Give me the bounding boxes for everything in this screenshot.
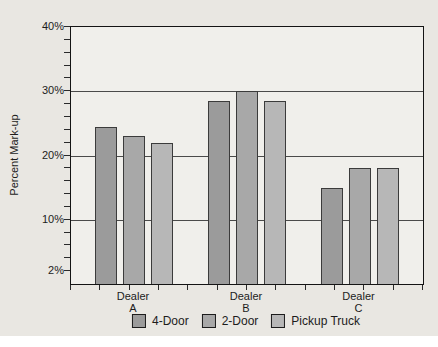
chart-panel: Percent Mark-up 4-Door2-DoorPickup Truck… bbox=[0, 0, 438, 336]
category-label-line1: Dealer bbox=[214, 290, 278, 302]
y-axis-minor-tick bbox=[64, 26, 70, 27]
x-category-label: DealerB bbox=[214, 290, 278, 314]
y-axis-minor-tick bbox=[64, 232, 70, 233]
y-axis-minor-tick bbox=[64, 193, 70, 194]
legend-label: 4-Door bbox=[152, 314, 189, 328]
category-label-line2: C bbox=[327, 302, 391, 314]
bar-2-door-dealer-a bbox=[123, 136, 145, 284]
bar-4-door-dealer-c bbox=[321, 188, 343, 284]
bar-2-door-dealer-c bbox=[349, 168, 371, 284]
bar-4-door-dealer-a bbox=[95, 127, 117, 284]
legend: 4-Door2-DoorPickup Truck bbox=[132, 314, 360, 328]
y-axis-tick-label: 2% bbox=[26, 264, 64, 277]
y-axis-minor-tick bbox=[64, 244, 70, 245]
legend-item-pickup-truck: Pickup Truck bbox=[271, 314, 360, 328]
category-label-line1: Dealer bbox=[327, 290, 391, 302]
y-axis-minor-tick bbox=[64, 65, 70, 66]
legend-swatch bbox=[202, 314, 216, 328]
y-axis-tick-label: 30% bbox=[26, 84, 64, 97]
x-axis-tick bbox=[393, 285, 394, 290]
y-axis-minor-tick bbox=[64, 77, 70, 78]
legend-swatch bbox=[132, 314, 146, 328]
category-label-line2: A bbox=[101, 302, 165, 314]
bar-pickup-truck-dealer-a bbox=[151, 143, 173, 284]
x-axis-tick bbox=[187, 285, 188, 290]
y-axis-minor-tick bbox=[64, 39, 70, 40]
legend-item-2-door: 2-Door bbox=[202, 314, 259, 328]
legend-item-4-door: 4-Door bbox=[132, 314, 189, 328]
y-axis-minor-tick bbox=[64, 129, 70, 130]
bar-pickup-truck-dealer-c bbox=[377, 168, 399, 284]
y-axis-minor-tick bbox=[64, 52, 70, 53]
bar-pickup-truck-dealer-b bbox=[264, 101, 286, 284]
y-axis-minor-tick bbox=[64, 270, 70, 271]
y-axis-tick-label: 40% bbox=[26, 20, 64, 33]
legend-swatch bbox=[271, 314, 285, 328]
bar-2-door-dealer-b bbox=[236, 91, 258, 284]
bar-4-door-dealer-b bbox=[208, 101, 230, 284]
y-axis-minor-tick bbox=[64, 90, 70, 91]
x-category-label: DealerC bbox=[327, 290, 391, 314]
x-axis-tick bbox=[422, 285, 423, 290]
legend-label: Pickup Truck bbox=[291, 314, 360, 328]
x-category-label: DealerA bbox=[101, 290, 165, 314]
category-label-line1: Dealer bbox=[101, 290, 165, 302]
y-axis-minor-tick bbox=[64, 116, 70, 117]
y-axis-minor-tick bbox=[64, 155, 70, 156]
category-label-line2: B bbox=[214, 302, 278, 314]
legend-label: 2-Door bbox=[222, 314, 259, 328]
x-axis-tick bbox=[305, 285, 306, 290]
y-axis-minor-tick bbox=[64, 142, 70, 143]
y-axis-minor-tick bbox=[64, 167, 70, 168]
x-axis-tick bbox=[70, 285, 71, 290]
y-axis-minor-tick bbox=[64, 257, 70, 258]
y-axis-minor-tick bbox=[64, 103, 70, 104]
plot-area bbox=[70, 26, 424, 285]
y-axis-minor-tick bbox=[64, 180, 70, 181]
y-axis-minor-tick bbox=[64, 206, 70, 207]
y-axis-minor-tick bbox=[64, 219, 70, 220]
y-axis-tick-label: 20% bbox=[26, 149, 64, 162]
y-axis-tick-label: 10% bbox=[26, 213, 64, 226]
y-axis-title: Percent Mark-up bbox=[8, 105, 20, 205]
